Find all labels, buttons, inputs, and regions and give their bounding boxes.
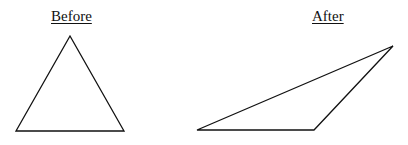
after-triangle <box>197 46 393 130</box>
diagram-canvas <box>0 0 408 145</box>
before-triangle <box>16 36 124 131</box>
